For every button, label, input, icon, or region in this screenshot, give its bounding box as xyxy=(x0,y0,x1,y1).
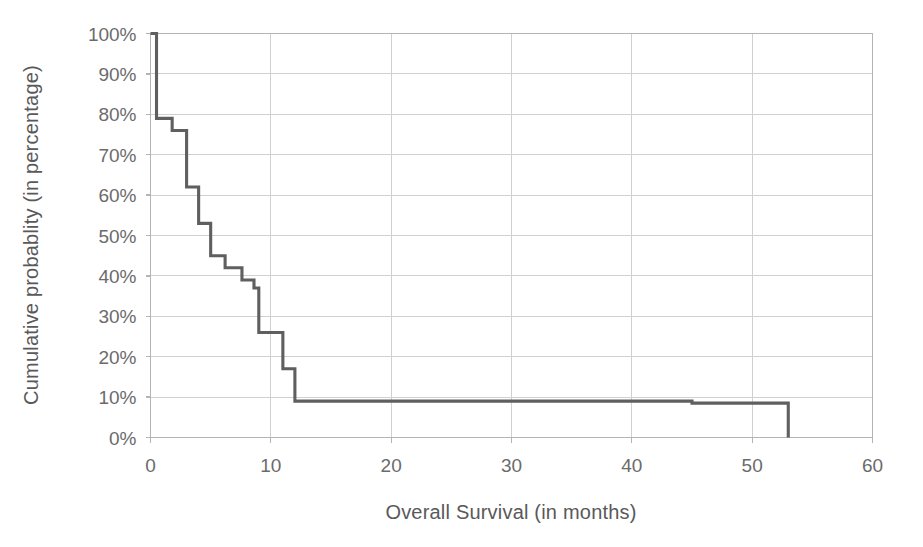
x-tick-label: 30 xyxy=(501,455,522,476)
x-axis-title: Overall Survival (in months) xyxy=(385,501,636,523)
chart-background xyxy=(0,0,923,547)
chart-canvas: 0%10%20%30%40%50%60%70%80%90%100% 010203… xyxy=(0,0,923,547)
y-tick-label: 70% xyxy=(98,145,136,166)
y-tick-label: 90% xyxy=(98,64,136,85)
x-tick-label: 10 xyxy=(260,455,281,476)
y-axis-title: Cumulative probablity (in percentage) xyxy=(20,65,42,405)
y-tick-label: 40% xyxy=(98,266,136,287)
kaplan-meier-chart: 0%10%20%30%40%50%60%70%80%90%100% 010203… xyxy=(0,0,923,547)
y-tick-label: 20% xyxy=(98,347,136,368)
y-tick-label: 0% xyxy=(109,428,137,449)
x-tick-label: 60 xyxy=(862,455,883,476)
x-tick-label: 50 xyxy=(742,455,763,476)
y-tick-label: 80% xyxy=(98,104,136,125)
x-tick-label: 40 xyxy=(621,455,642,476)
y-tick-label: 10% xyxy=(98,387,136,408)
y-tick-label: 50% xyxy=(98,226,136,247)
y-tick-label: 60% xyxy=(98,185,136,206)
x-tick-label: 0 xyxy=(145,455,156,476)
x-tick-label: 20 xyxy=(381,455,402,476)
y-tick-label: 100% xyxy=(88,24,137,45)
y-tick-label: 30% xyxy=(98,306,136,327)
